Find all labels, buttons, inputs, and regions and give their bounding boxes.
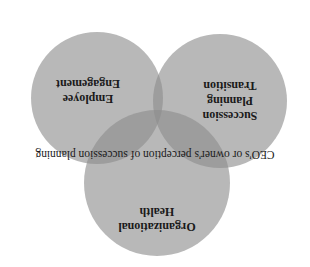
circle-health [84, 110, 230, 256]
svg-text:Organizational: Organizational [118, 220, 196, 234]
venn-diagram: Organizational Health CEO's or owner's p… [0, 0, 310, 267]
svg-text:Health: Health [139, 205, 174, 219]
center-caption: CEO's or owner's perception of successio… [35, 148, 274, 161]
label-engagement: Employee Engagement [56, 77, 120, 106]
svg-text:Planning: Planning [207, 94, 253, 108]
svg-text:Engagement: Engagement [56, 77, 120, 91]
svg-text:Transition: Transition [203, 79, 256, 93]
venn-svg: Organizational Health CEO's or owner's p… [0, 0, 310, 267]
svg-text:Employee: Employee [62, 92, 113, 106]
svg-text:Succession: Succession [202, 109, 257, 123]
label-succession: Succession Planning Transition [202, 79, 257, 123]
